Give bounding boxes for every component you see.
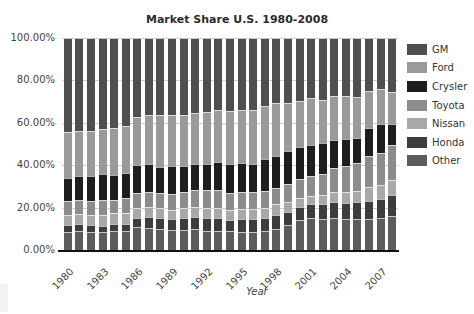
bar-segment-other bbox=[307, 218, 315, 250]
y-tick-label: 0.00% bbox=[0, 244, 55, 255]
bar-segment-other bbox=[353, 219, 361, 250]
bar-segment-honda bbox=[284, 212, 292, 225]
bar-segment-ford bbox=[214, 110, 222, 162]
bar-segment-honda bbox=[180, 218, 188, 230]
legend-swatch bbox=[407, 137, 427, 148]
bar-segment-gm bbox=[214, 38, 222, 110]
bar-segment-other bbox=[168, 230, 176, 250]
bar-segment-toyota bbox=[249, 192, 257, 209]
stacked-bar-1982 bbox=[87, 38, 95, 250]
bar-segment-other bbox=[191, 229, 199, 250]
bar-segment-gm bbox=[168, 38, 176, 115]
bar-segment-nissan bbox=[319, 195, 327, 205]
bar-segment-nissan bbox=[64, 215, 72, 225]
bar-segment-toyota bbox=[330, 168, 338, 191]
bar-segment-gm bbox=[156, 38, 164, 115]
bar-segment-ford bbox=[168, 115, 176, 166]
bar-segment-honda bbox=[296, 207, 304, 221]
bar-segment-nissan bbox=[75, 214, 83, 224]
stacked-bar-1997 bbox=[261, 38, 269, 250]
bar-segment-toyota bbox=[226, 193, 234, 210]
bar-segment-toyota bbox=[168, 194, 176, 210]
bar-segment-toyota bbox=[353, 163, 361, 191]
bar-segment-other bbox=[272, 229, 280, 250]
bar-segment-ford bbox=[284, 103, 292, 152]
legend-item-ford: Ford bbox=[407, 59, 467, 78]
bar-segment-gm bbox=[365, 38, 373, 91]
bar-segment-toyota bbox=[122, 198, 130, 213]
legend-item-gm: GM bbox=[407, 40, 467, 59]
bar-segment-crysler bbox=[64, 178, 72, 201]
bar-segment-crysler bbox=[75, 176, 83, 200]
bar-segment-crysler bbox=[353, 138, 361, 163]
bar-segment-ford bbox=[226, 111, 234, 164]
bar-segment-honda bbox=[319, 204, 327, 219]
bar-segment-nissan bbox=[342, 192, 350, 204]
x-axis-label: Year bbox=[0, 286, 474, 297]
bar-segment-honda bbox=[64, 225, 72, 232]
bar-segment-toyota bbox=[342, 166, 350, 191]
bar-segment-honda bbox=[388, 195, 396, 216]
bar-segment-other bbox=[342, 219, 350, 250]
bar-segment-crysler bbox=[203, 164, 211, 189]
bar-segment-gm bbox=[87, 38, 95, 131]
bar-segment-gm bbox=[319, 38, 327, 99]
legend-item-nissan: Nissan bbox=[407, 114, 467, 133]
bar-segment-crysler bbox=[87, 176, 95, 201]
bar-segment-toyota bbox=[64, 201, 72, 215]
bar-segment-ford bbox=[377, 89, 385, 124]
bar-segment-other bbox=[330, 218, 338, 250]
bar-segment-toyota bbox=[319, 174, 327, 195]
bar-segment-nissan bbox=[110, 213, 118, 224]
bar-segment-nissan bbox=[145, 207, 153, 218]
bar-segment-nissan bbox=[272, 204, 280, 215]
bar-segment-nissan bbox=[168, 210, 176, 220]
bar-segment-ford bbox=[388, 92, 396, 124]
bar-segment-other bbox=[238, 232, 246, 250]
bar-segment-nissan bbox=[156, 208, 164, 219]
bar-segment-nissan bbox=[330, 192, 338, 203]
bar-segment-honda bbox=[145, 217, 153, 228]
legend-label: Crysler bbox=[432, 81, 467, 92]
bar-segment-other bbox=[319, 219, 327, 250]
bar-segment-honda bbox=[75, 224, 83, 231]
bar-segment-toyota bbox=[145, 192, 153, 207]
bar-segment-ford bbox=[122, 126, 130, 173]
stacked-bar-1996 bbox=[249, 38, 257, 250]
legend-swatch bbox=[407, 100, 427, 111]
bar-segment-nissan bbox=[261, 208, 269, 219]
bar-segment-gm bbox=[377, 38, 385, 89]
bar-segment-gm bbox=[284, 38, 292, 103]
x-axis-line bbox=[58, 250, 399, 252]
bar-segment-honda bbox=[307, 204, 315, 218]
bar-segment-nissan bbox=[365, 187, 373, 201]
y-tick-label: 60.00% bbox=[0, 117, 55, 128]
bar-segment-honda bbox=[203, 218, 211, 231]
bar-segment-ford bbox=[296, 101, 304, 148]
bar-segment-honda bbox=[238, 219, 246, 232]
bar-segment-ford bbox=[145, 115, 153, 164]
bar-segment-honda bbox=[377, 199, 385, 218]
bar-segment-ford bbox=[110, 128, 118, 175]
bar-segment-ford bbox=[307, 98, 315, 145]
bar-segment-crysler bbox=[261, 159, 269, 191]
bar-segment-nissan bbox=[214, 208, 222, 219]
bar-segment-gm bbox=[353, 38, 361, 97]
bar-segment-crysler bbox=[99, 174, 107, 201]
stacked-bar-1998 bbox=[272, 38, 280, 250]
bar-segment-crysler bbox=[388, 124, 396, 145]
bar-segment-nissan bbox=[388, 180, 396, 195]
bar-segment-ford bbox=[319, 100, 327, 143]
stacked-bar-1991 bbox=[191, 38, 199, 250]
bar-segment-honda bbox=[272, 215, 280, 229]
bar-segment-crysler bbox=[156, 167, 164, 192]
bar-segment-other bbox=[110, 231, 118, 250]
bar-segment-other bbox=[122, 231, 130, 250]
bar-segment-nissan bbox=[87, 215, 95, 225]
bar-segment-crysler bbox=[272, 156, 280, 188]
stacked-bar-2002 bbox=[319, 38, 327, 250]
legend-swatch bbox=[407, 62, 427, 73]
bar-segment-honda bbox=[87, 225, 95, 232]
bar-segment-crysler bbox=[214, 162, 222, 190]
bar-segment-honda bbox=[191, 217, 199, 229]
